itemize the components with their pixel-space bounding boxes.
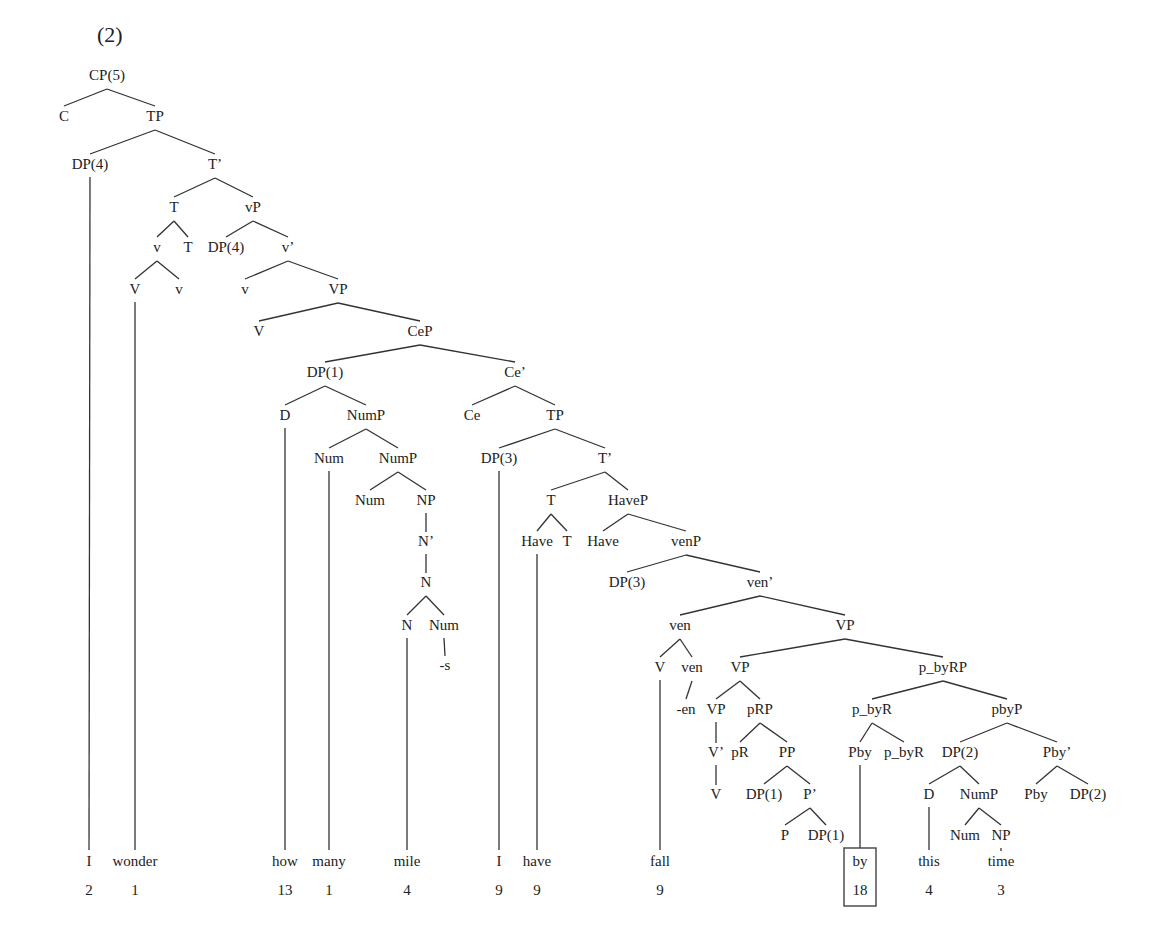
word-count: 1 bbox=[325, 882, 333, 898]
terminal-word: mile bbox=[394, 853, 421, 869]
tree-branch bbox=[686, 555, 760, 572]
tree-node: V bbox=[711, 786, 722, 802]
tree-branch bbox=[370, 472, 398, 490]
tree-branch bbox=[764, 766, 787, 784]
tree-node: V bbox=[655, 659, 666, 675]
tree-node: DP(2) bbox=[942, 744, 979, 761]
tree-node: DP(4) bbox=[72, 156, 109, 173]
tree-node: N’ bbox=[418, 533, 434, 549]
word-count: 3 bbox=[997, 882, 1005, 898]
tree-branch bbox=[628, 514, 686, 531]
tree-branch bbox=[787, 766, 810, 784]
tree-branch bbox=[551, 472, 605, 490]
tree-node: T’ bbox=[598, 450, 612, 466]
tree-node: ven bbox=[669, 617, 691, 633]
tree-node-labels: CP(5)CTPDP(4)T’TvPvTDP(4)v’VvvVPVCePDP(1… bbox=[59, 67, 1106, 844]
tree-node: DP(1) bbox=[746, 786, 783, 803]
tree-node: NumP bbox=[379, 450, 417, 466]
word-count: 1 bbox=[131, 882, 139, 898]
tree-node: DP(3) bbox=[609, 574, 646, 591]
tree-branch bbox=[627, 555, 686, 572]
terminal-word: by bbox=[853, 853, 869, 869]
tree-node: Pby bbox=[848, 744, 872, 760]
tree-branch bbox=[943, 681, 1007, 699]
tree-node: C bbox=[59, 108, 69, 124]
tree-branch bbox=[960, 723, 1007, 742]
tree-node: D bbox=[924, 786, 935, 802]
tree-node: T bbox=[183, 239, 192, 255]
tree-branch bbox=[785, 808, 810, 825]
tree-branch bbox=[174, 221, 188, 237]
tree-branch bbox=[366, 429, 398, 448]
terminal-words: I2wonder1how13many1mile4I9have9fall9by18… bbox=[85, 848, 1014, 906]
tree-node: N bbox=[402, 617, 413, 633]
tree-branch bbox=[872, 723, 904, 742]
tree-node: V’ bbox=[708, 744, 724, 760]
tree-node: CeP bbox=[407, 323, 432, 339]
tree-branch bbox=[551, 514, 567, 531]
tree-node: Ce bbox=[464, 407, 481, 423]
tree-node: -en bbox=[676, 701, 696, 717]
tree-node: HaveP bbox=[608, 492, 648, 508]
tree-branch bbox=[760, 596, 845, 615]
tree-node: venP bbox=[671, 533, 701, 549]
tree-branch bbox=[929, 766, 960, 784]
tree-node: ven’ bbox=[747, 574, 774, 590]
tree-node: DP(1) bbox=[808, 827, 845, 844]
tree-branch bbox=[325, 345, 420, 362]
tree-node: VP bbox=[706, 701, 725, 717]
tree-branch bbox=[329, 429, 366, 448]
word-count: 9 bbox=[533, 882, 541, 898]
tree-node: Have bbox=[521, 533, 553, 549]
tree-node: ven bbox=[681, 659, 703, 675]
word-count: 18 bbox=[853, 882, 868, 898]
tree-node: vP bbox=[245, 199, 261, 215]
word-count: 9 bbox=[495, 882, 503, 898]
tree-branch bbox=[472, 386, 515, 405]
terminal-word: how bbox=[272, 853, 298, 869]
tree-node: Have bbox=[587, 533, 619, 549]
tree-node: pbyP bbox=[992, 701, 1023, 717]
tree-node: TP bbox=[146, 108, 164, 124]
tree-branch bbox=[680, 639, 692, 657]
tree-node: Pby bbox=[1024, 786, 1048, 802]
tree-branch bbox=[226, 221, 253, 237]
tree-node: N bbox=[421, 574, 432, 590]
tree-branch bbox=[537, 514, 551, 531]
tree-node: p_byRP bbox=[919, 659, 967, 675]
tree-branch bbox=[660, 639, 680, 657]
tree-node: NP bbox=[991, 827, 1010, 843]
tree-node: DP(1) bbox=[307, 364, 344, 381]
tree-branch bbox=[245, 261, 288, 279]
tree-node: DP(2) bbox=[1070, 786, 1107, 803]
tree-node: v bbox=[153, 239, 161, 255]
tree-branch bbox=[979, 808, 1001, 825]
tree-node: D bbox=[280, 407, 291, 423]
tree-branch bbox=[740, 639, 845, 657]
tree-node: pR bbox=[731, 744, 749, 760]
tree-branch bbox=[135, 261, 157, 279]
tree-branch bbox=[398, 472, 426, 490]
tree-node: v bbox=[175, 281, 183, 297]
tree-branch bbox=[810, 808, 826, 825]
tree-node: T bbox=[562, 533, 571, 549]
tree-branch bbox=[605, 472, 628, 490]
tree-node: Num bbox=[429, 617, 459, 633]
terminal-word: have bbox=[523, 853, 552, 869]
tree-node: Pby’ bbox=[1043, 744, 1071, 760]
terminal-word: fall bbox=[650, 853, 670, 869]
word-count: 9 bbox=[656, 882, 664, 898]
tree-node: P bbox=[781, 827, 789, 843]
tree-branch bbox=[407, 596, 426, 615]
tree-branch bbox=[325, 386, 366, 405]
tree-branch bbox=[680, 596, 760, 615]
word-count: 4 bbox=[403, 882, 411, 898]
tree-branch bbox=[155, 130, 215, 154]
tree-node: NP bbox=[416, 492, 435, 508]
word-count: 4 bbox=[925, 882, 933, 898]
tree-node: TP bbox=[546, 407, 564, 423]
tree-node: V bbox=[254, 323, 265, 339]
tree-branch bbox=[338, 303, 420, 321]
terminal-word: wonder bbox=[113, 853, 158, 869]
tree-node: Ce’ bbox=[504, 364, 526, 380]
